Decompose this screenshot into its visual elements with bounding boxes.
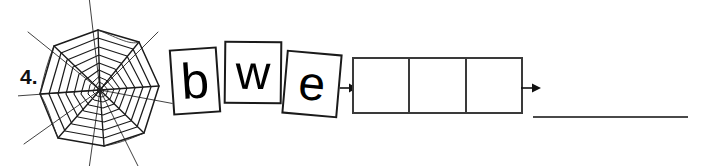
answer-box-row: [352, 57, 523, 114]
letter-tile-label: w: [235, 51, 270, 95]
letter-tile-label: e: [297, 61, 327, 106]
letter-tile[interactable]: b: [169, 46, 221, 115]
answer-box[interactable]: [410, 59, 466, 112]
answer-box[interactable]: [354, 59, 410, 112]
arrow-right-icon: [521, 81, 541, 95]
answer-line[interactable]: [533, 116, 688, 118]
answer-box[interactable]: [467, 59, 521, 112]
letter-tile[interactable]: w: [224, 41, 283, 105]
worksheet-item: 4.: [0, 0, 708, 166]
spider-web-icon: [18, 0, 188, 166]
letter-tile-label: b: [180, 58, 211, 105]
letter-tile[interactable]: e: [281, 50, 342, 119]
